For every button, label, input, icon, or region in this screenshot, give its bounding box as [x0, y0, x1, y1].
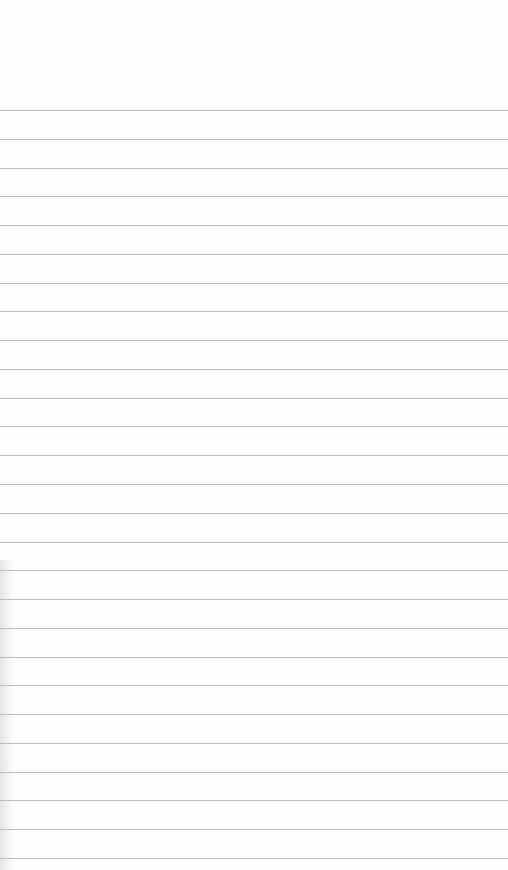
- ruled-line: [0, 829, 508, 830]
- ruled-line: [0, 714, 508, 715]
- ruled-line: [0, 196, 508, 197]
- ruled-line: [0, 340, 508, 341]
- ruled-line: [0, 628, 508, 629]
- ruled-line: [0, 685, 508, 686]
- ruled-line: [0, 772, 508, 773]
- ruled-line: [0, 369, 508, 370]
- ruled-paper: [0, 0, 508, 870]
- ruled-line: [0, 570, 508, 571]
- ruled-line: [0, 283, 508, 284]
- ruled-line: [0, 542, 508, 543]
- ruled-line: [0, 484, 508, 485]
- ruled-line: [0, 254, 508, 255]
- ruled-line: [0, 311, 508, 312]
- ruled-line: [0, 599, 508, 600]
- ruled-line: [0, 800, 508, 801]
- ruled-line: [0, 426, 508, 427]
- ruled-line: [0, 110, 508, 111]
- ruled-line: [0, 513, 508, 514]
- ruled-line: [0, 657, 508, 658]
- ruled-line: [0, 139, 508, 140]
- ruled-line: [0, 168, 508, 169]
- ruled-line: [0, 455, 508, 456]
- ruled-line: [0, 743, 508, 744]
- page-edge-shadow: [0, 560, 14, 870]
- ruled-line: [0, 225, 508, 226]
- ruled-line: [0, 398, 508, 399]
- ruled-line: [0, 858, 508, 859]
